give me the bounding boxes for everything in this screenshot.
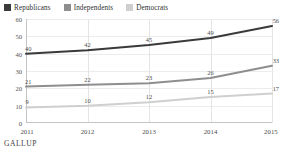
y-axis-tick-label: 10 <box>15 102 22 109</box>
data-point-label: 42 <box>84 41 90 48</box>
data-point-label: 45 <box>146 36 152 43</box>
x-axis-tick-label: 2013 <box>142 128 156 136</box>
data-point-label: 21 <box>25 78 31 85</box>
data-point-label: 56 <box>273 17 279 24</box>
y-axis-tick-label: 60 <box>15 16 22 23</box>
data-point-label: 40 <box>25 45 31 52</box>
data-point-label: 17 <box>273 85 279 92</box>
data-point-label: 10 <box>84 97 90 104</box>
data-point-label: 9 <box>26 98 29 105</box>
x-axis-tick-label: 2011 <box>20 128 33 136</box>
chart-legend: RepublicansIndependentsDemocrats <box>4 1 181 14</box>
x-axis-tick-label: 2012 <box>81 128 95 136</box>
series-lines <box>26 19 272 123</box>
gridline-vertical <box>272 19 273 123</box>
gallup-line-chart: RepublicansIndependentsDemocrats 0102030… <box>0 0 295 156</box>
legend-item-label: Democrats <box>136 4 168 12</box>
legend-item-label: Republicans <box>14 4 51 12</box>
y-axis-tick-label: 40 <box>15 50 22 57</box>
legend-swatch-icon <box>4 4 11 11</box>
y-axis-tick-label: 0 <box>19 120 22 127</box>
data-point-label: 49 <box>207 29 213 36</box>
data-point-label: 22 <box>84 76 90 83</box>
y-axis-tick-label: 30 <box>15 68 22 75</box>
x-axis-tick-label: 2014 <box>204 128 218 136</box>
plot-area: 0102030405060 20112012201320142015 40424… <box>26 19 272 123</box>
legend-item: Independents <box>64 4 114 12</box>
y-axis-tick-label: 50 <box>15 33 22 40</box>
legend-item: Republicans <box>4 4 51 12</box>
legend-item: Democrats <box>126 4 168 12</box>
legend-swatch-icon <box>126 4 133 11</box>
source-attribution: GALLUP <box>4 139 37 148</box>
data-point-label: 26 <box>207 69 213 76</box>
data-point-label: 33 <box>273 57 279 64</box>
data-point-label: 15 <box>207 88 213 95</box>
y-axis-tick-label: 20 <box>15 85 22 92</box>
legend-swatch-icon <box>64 4 71 11</box>
legend-item-label: Independents <box>74 4 114 12</box>
data-point-label: 23 <box>146 74 152 81</box>
data-point-label: 12 <box>146 93 152 100</box>
x-axis-tick-label: 2015 <box>264 128 278 136</box>
